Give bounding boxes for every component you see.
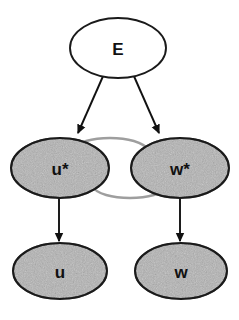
node-w[interactable]: w [135,243,227,299]
node-e[interactable]: E [70,18,166,78]
graph-svg: u* w* u w E [0,0,239,320]
edge-e-to-wstar [133,74,159,133]
node-e-label: E [112,40,123,59]
node-w-star[interactable]: w* [131,138,229,198]
node-w-label: w [173,263,188,282]
node-u-star[interactable]: u* [11,138,109,198]
node-u[interactable]: u [13,243,107,299]
edge-e-to-ustar [78,74,104,133]
node-u-label: u [55,263,65,282]
node-w-star-label: w* [169,160,190,179]
node-u-star-label: u* [52,160,69,179]
diagram-canvas: u* w* u w E [0,0,239,320]
